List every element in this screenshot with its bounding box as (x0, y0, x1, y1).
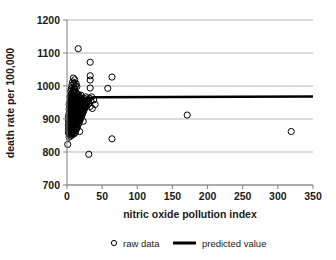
legend-predicted-value-label: predicted value (202, 238, 266, 249)
y-tick-label: 800 (42, 146, 60, 158)
y-tick-label: 700 (42, 179, 60, 191)
legend-raw-data-label: raw data (123, 238, 160, 249)
x-tick-label: 0 (64, 190, 70, 202)
y-tick-label: 900 (42, 113, 60, 125)
y-tick-label: 1100 (37, 47, 60, 59)
x-tick-label: 150 (164, 190, 182, 202)
x-tick-label: 50 (96, 190, 108, 202)
x-tick-label: 100 (129, 190, 147, 202)
y-axis-title: death rate per 100,000 (4, 48, 16, 158)
x-tick-label: 350 (304, 190, 322, 202)
scatter-plot-figure: 700800900100011001200 050100150200250300… (0, 0, 336, 260)
chart-background (0, 0, 336, 260)
x-tick-label: 200 (199, 190, 217, 202)
y-tick-label: 1000 (37, 80, 61, 92)
chart-canvas: 700800900100011001200 050100150200250300… (0, 0, 336, 260)
y-tick-label: 1200 (37, 14, 61, 26)
x-axis-title: nitric oxide pollution index (123, 208, 257, 220)
x-tick-label: 250 (234, 190, 252, 202)
x-tick-label: 300 (269, 190, 287, 202)
